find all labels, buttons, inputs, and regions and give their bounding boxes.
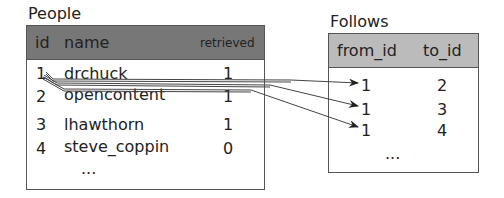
relationship-arrows [0,0,504,198]
arrow-to-follows-row-1 [46,72,358,83]
